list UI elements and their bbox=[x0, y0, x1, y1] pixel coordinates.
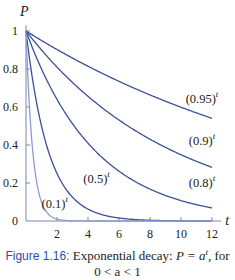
y-tick-label: 0 bbox=[12, 214, 18, 228]
y-tick-label: 0.4 bbox=[3, 138, 18, 152]
figure-caption: Figure 1.16: Exponential decay: P = at, … bbox=[0, 243, 235, 280]
curve-0-5 bbox=[26, 31, 212, 221]
exponential-decay-chart: 2468101200.20.40.60.81Pt(0.95)t(0.9)t(0.… bbox=[0, 0, 235, 242]
figure-number: Figure 1.16: bbox=[5, 249, 69, 263]
curve-label: (0.5)t bbox=[83, 169, 110, 186]
x-axis-label: t bbox=[225, 213, 230, 228]
caption-text-end: , for bbox=[208, 248, 230, 263]
y-tick-label: 0.6 bbox=[3, 100, 18, 114]
x-tick-label: 4 bbox=[85, 227, 91, 241]
y-tick-label: 1 bbox=[12, 24, 18, 38]
y-tick-label: 0.8 bbox=[3, 62, 18, 76]
x-tick-label: 8 bbox=[147, 227, 153, 241]
caption-formula: P = a bbox=[176, 248, 205, 263]
curve-label: (0.9)t bbox=[189, 131, 216, 148]
curve-label: (0.8)t bbox=[189, 173, 216, 190]
x-tick-label: 6 bbox=[116, 227, 122, 241]
y-tick-label: 0.2 bbox=[3, 176, 18, 190]
curve-0-9 bbox=[26, 31, 212, 167]
caption-text: Exponential decay: bbox=[73, 248, 176, 263]
curve-label: (0.1)t bbox=[42, 194, 69, 211]
curve-0-1 bbox=[26, 31, 212, 221]
y-axis-label: P bbox=[19, 4, 29, 19]
curve-0-95 bbox=[26, 31, 212, 118]
x-tick-label: 12 bbox=[206, 227, 218, 241]
x-tick-label: 10 bbox=[175, 227, 187, 241]
x-tick-label: 2 bbox=[54, 227, 60, 241]
caption-line-2: 0 < a < 1 bbox=[0, 264, 235, 280]
curve-label: (0.95)t bbox=[186, 89, 219, 106]
